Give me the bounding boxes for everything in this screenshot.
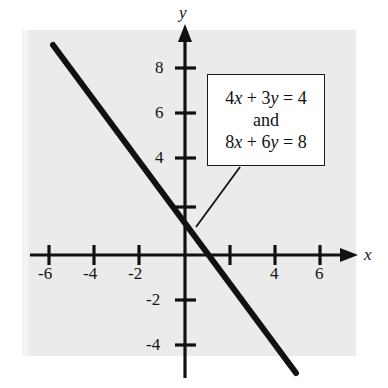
x-axis-arrowhead [340,248,358,262]
equation-second-v2: y [271,132,279,152]
equation-second-c1: 8 [225,132,234,152]
equation-second: 8x + 6y = 8 [225,132,306,152]
equation-second-op: + [247,132,257,152]
equation-first-v1: x [234,88,242,108]
y-tick-label-4: 4 [155,148,164,168]
y-axis [175,24,196,378]
coordinate-plane [0,0,388,388]
y-tick-label-6: 6 [155,103,164,123]
x-tick-label--2: -2 [128,264,142,284]
equations-callout-box: 4x + 3y = 4 and 8x + 6y = 8 [207,74,325,166]
equation-first-c1: 4 [225,88,234,108]
y-axis-label: y [179,3,187,23]
y-axis-arrowhead [178,24,192,42]
equation-second-rhs: 8 [298,132,307,152]
y-tick-label--4: -4 [146,335,160,355]
equation-second-eq: = [283,132,293,152]
equation-first-v2: y [271,88,279,108]
equation-second-v1: x [234,132,242,152]
callout-conjunction: and [253,110,279,130]
equation-first: 4x + 3y = 4 [225,88,306,108]
equation-first-eq: = [283,88,293,108]
x-tick-label-6: 6 [315,264,324,284]
y-tick-label--2: -2 [146,290,160,310]
y-tick-label-8: 8 [155,58,164,78]
graph-figure: y x -6 -4 -2 4 6 8 6 4 -2 -4 4x + 3y = 4… [0,0,388,388]
x-tick-label--6: -6 [38,264,52,284]
x-tick-label--4: -4 [83,264,97,284]
x-axis-label: x [364,245,372,265]
x-tick-label-4: 4 [270,264,279,284]
x-axis [30,245,358,265]
callout-leader-line [196,167,240,227]
equation-first-c2: 3 [262,88,271,108]
equation-first-op: + [247,88,257,108]
equation-first-rhs: 4 [298,88,307,108]
equation-second-c2: 6 [262,132,271,152]
